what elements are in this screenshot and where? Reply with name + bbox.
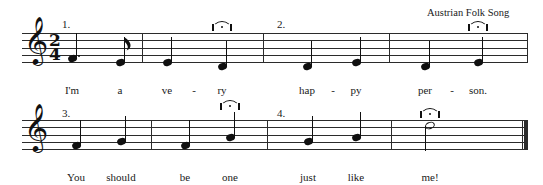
phrase-number: 2. — [277, 18, 285, 30]
note-stem — [482, 37, 483, 62]
lyric-hyphen: - — [331, 84, 335, 96]
note-stem — [226, 41, 227, 66]
note-stem — [311, 41, 312, 66]
note-stem — [80, 120, 81, 145]
fermata-arc-left-tip — [468, 24, 470, 31]
phrase-number: 4. — [277, 107, 285, 119]
final-barline-thin — [522, 120, 523, 149]
note-stem — [360, 37, 361, 62]
fermata-arc-right-tip — [438, 111, 440, 118]
lyric-syllable: ry — [217, 84, 226, 96]
note-stem — [125, 116, 126, 141]
fermata-icon — [468, 21, 488, 32]
staff-line — [22, 48, 528, 49]
barline — [142, 33, 143, 62]
lyric-syllable: should — [106, 171, 135, 183]
barline — [527, 33, 528, 62]
lyric-syllable: be — [180, 171, 190, 183]
fermata-arc — [212, 21, 232, 39]
fermata-arc-left-tip — [212, 24, 214, 31]
lyric-syllable: son. — [469, 84, 487, 96]
fermata-arc-left-tip — [220, 103, 222, 110]
staff-line — [22, 120, 528, 121]
staff-line — [22, 135, 528, 136]
fermata-arc — [420, 108, 440, 126]
fermata-arc-right-tip — [230, 24, 232, 31]
fermata-icon — [420, 108, 440, 119]
note-stem — [312, 116, 313, 141]
lyric-syllable: ve — [162, 84, 172, 96]
final-barline-thick — [524, 120, 528, 149]
eighth-note-flag — [124, 37, 131, 50]
barline — [389, 33, 390, 62]
lyric-syllable: per — [418, 84, 432, 96]
augmentation-dot — [78, 55, 80, 57]
note-stem — [76, 33, 77, 58]
lyric-syllable: like — [348, 171, 365, 183]
fermata-arc-right-tip — [238, 103, 240, 110]
fermata-icon — [212, 21, 232, 32]
staff-line — [22, 55, 528, 56]
lyric-syllable: You — [67, 171, 85, 183]
lyric-syllable: I'm — [65, 84, 79, 96]
lyric-syllable: one — [222, 171, 238, 183]
lyric-syllable: just — [300, 171, 316, 183]
lyric-syllable: me! — [421, 171, 438, 183]
fermata-arc — [468, 21, 488, 39]
staff-line — [22, 142, 528, 143]
fermata-arc-left-tip — [420, 111, 422, 118]
note-stem — [189, 120, 190, 145]
lyric-hyphen: - — [450, 84, 454, 96]
staff-line — [22, 40, 528, 41]
staff-line — [22, 127, 528, 128]
barline — [263, 33, 264, 62]
lyric-hyphen: - — [192, 84, 196, 96]
barline — [267, 120, 268, 149]
time-signature: 24 — [48, 33, 62, 61]
staff-line — [22, 33, 528, 34]
barline — [151, 120, 152, 149]
fermata-arc — [220, 100, 240, 118]
note-stem — [171, 37, 172, 62]
treble-clef-icon: 𝄞 — [24, 20, 48, 61]
time-signature-denominator: 4 — [48, 47, 62, 61]
note-stem — [425, 126, 426, 151]
sheet-music-page: Austrian Folk Song 𝄞241.2.I'maveryhappyp… — [0, 0, 543, 185]
barline — [391, 120, 392, 149]
fermata-icon — [220, 100, 240, 111]
note-stem — [429, 41, 430, 66]
fermata-arc-right-tip — [486, 24, 488, 31]
lyric-syllable: hap — [299, 84, 315, 96]
treble-clef-icon: 𝄞 — [24, 107, 48, 148]
lyric-syllable: py — [351, 84, 362, 96]
staff-line — [22, 62, 528, 63]
phrase-number: 3. — [62, 107, 70, 119]
note-stem — [360, 112, 361, 137]
lyric-syllable: a — [118, 84, 123, 96]
phrase-number: 1. — [62, 18, 70, 30]
composer-credit: Austrian Folk Song — [427, 7, 509, 18]
staff-line — [22, 149, 528, 150]
